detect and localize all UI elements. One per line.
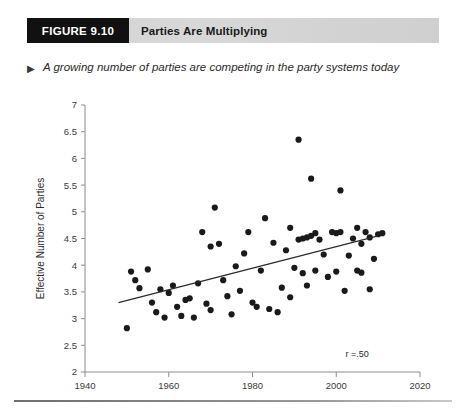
y-axis-tick-label: 6.5 xyxy=(64,126,77,137)
data-point xyxy=(212,204,218,210)
scatter-chart: 22.533.544.555.566.57 194019601980200020… xyxy=(0,92,466,392)
figure-header: FIGURE 9.10 Parties Are Multiplying xyxy=(27,18,439,43)
y-axis-tick-label: 3 xyxy=(72,313,77,324)
y-axis-tick-label: 5 xyxy=(72,206,77,217)
data-point xyxy=(208,307,214,313)
data-point xyxy=(312,230,318,236)
data-point xyxy=(337,187,343,193)
data-point xyxy=(191,314,197,320)
chart-canvas: 22.533.544.555.566.57 194019601980200020… xyxy=(0,92,466,392)
data-point xyxy=(254,304,260,310)
figure-number-badge: FIGURE 9.10 xyxy=(27,18,129,43)
x-axis-tick-label: 1940 xyxy=(74,380,95,391)
data-point xyxy=(362,229,368,235)
data-point xyxy=(333,269,339,275)
data-point xyxy=(300,270,306,276)
y-axis-title: Effective Number of Parties xyxy=(35,178,46,300)
data-point xyxy=(203,301,209,307)
data-point xyxy=(371,256,377,262)
data-point xyxy=(283,247,289,253)
data-point xyxy=(178,313,184,319)
y-axis-tick-label: 7 xyxy=(72,99,77,110)
data-point xyxy=(136,285,142,291)
y-axis: 22.533.544.555.566.57 xyxy=(64,99,85,377)
data-point xyxy=(367,286,373,292)
data-point xyxy=(245,229,251,235)
data-point xyxy=(287,225,293,231)
data-point xyxy=(304,282,310,288)
data-point xyxy=(199,229,205,235)
y-axis-tick-label: 5.5 xyxy=(64,180,77,191)
data-point xyxy=(291,265,297,271)
data-point xyxy=(316,236,322,242)
y-axis-tick-label: 2.5 xyxy=(64,340,77,351)
data-point xyxy=(308,176,314,182)
data-point xyxy=(358,241,364,247)
data-point xyxy=(228,311,234,317)
data-point xyxy=(266,306,272,312)
x-axis: 19401960198020002020 xyxy=(74,372,430,391)
x-axis-tick-label: 1960 xyxy=(158,380,179,391)
data-point xyxy=(132,277,138,283)
correlation-annotation: r =.50 xyxy=(346,349,369,359)
data-point xyxy=(337,229,343,235)
x-axis-tick-label: 2020 xyxy=(409,380,430,391)
data-point xyxy=(312,267,318,273)
x-axis-tick-label: 2000 xyxy=(326,380,347,391)
y-axis-tick-label: 4 xyxy=(72,260,77,271)
y-axis-tick-label: 4.5 xyxy=(64,233,77,244)
data-point xyxy=(224,293,230,299)
triangle-bullet-icon: ▶ xyxy=(27,61,35,77)
data-point xyxy=(258,267,264,273)
data-point xyxy=(275,309,281,315)
data-point xyxy=(342,288,348,294)
data-point xyxy=(354,225,360,231)
y-axis-tick-label: 2 xyxy=(72,366,77,377)
data-point xyxy=(174,304,180,310)
data-point xyxy=(279,285,285,291)
data-point xyxy=(325,274,331,280)
data-point xyxy=(321,251,327,257)
data-point xyxy=(237,288,243,294)
data-point xyxy=(208,243,214,249)
data-point xyxy=(233,263,239,269)
data-point xyxy=(149,299,155,305)
data-point xyxy=(124,325,130,331)
figure-caption-text: A growing number of parties are competin… xyxy=(43,60,399,75)
data-point xyxy=(287,294,293,300)
data-point xyxy=(358,270,364,276)
y-axis-tick-label: 6 xyxy=(72,153,77,164)
bottom-divider xyxy=(14,400,452,402)
data-point xyxy=(128,269,134,275)
data-point xyxy=(216,241,222,247)
data-points xyxy=(124,137,386,332)
data-point xyxy=(262,215,268,221)
data-point xyxy=(346,252,352,258)
data-point xyxy=(161,314,167,320)
data-point xyxy=(241,250,247,256)
data-point xyxy=(379,230,385,236)
data-point xyxy=(153,309,159,315)
data-point xyxy=(187,295,193,301)
data-point xyxy=(295,137,301,143)
data-point xyxy=(220,277,226,283)
data-point xyxy=(270,240,276,246)
chart-annotations: r =.50 xyxy=(346,349,369,359)
y-axis-tick-label: 3.5 xyxy=(64,286,77,297)
x-axis-tick-label: 1980 xyxy=(242,380,263,391)
data-point xyxy=(350,235,356,241)
regression-line xyxy=(119,236,379,303)
data-point xyxy=(145,266,151,272)
figure-title: Parties Are Multiplying xyxy=(129,18,267,43)
trendline xyxy=(119,236,379,303)
figure-caption: ▶ A growing number of parties are compet… xyxy=(27,60,447,77)
